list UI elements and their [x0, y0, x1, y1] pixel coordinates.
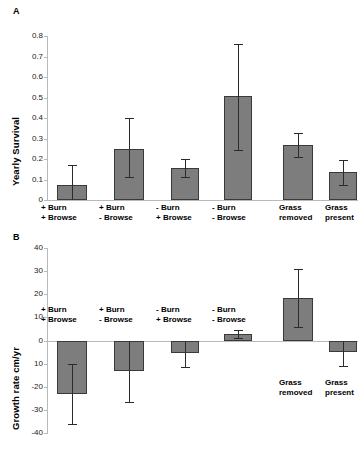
panel-b: B Growth rate cm/yr 40302010010-20-30-40… [0, 230, 364, 459]
category-label-line1: - Burn [156, 203, 180, 212]
y-axis-tick [44, 57, 47, 58]
y-axis-tick-label: 0.1 [13, 175, 43, 184]
panel-a: A Yearly Survival 00.10.20.30.40.50.60.7… [0, 0, 364, 230]
category-label: Grassremoved [279, 378, 312, 398]
error-bar-cap-lower [339, 366, 348, 367]
error-bar-cap-lower [125, 402, 134, 403]
category-label-line1: + Burn [99, 305, 125, 314]
error-bar-cap-upper [125, 118, 134, 119]
category-label-line1: Grass [325, 378, 348, 387]
category-label: + Burn+ Browse [41, 203, 77, 223]
error-bar-cap-lower [234, 150, 243, 151]
error-bar-cap-upper [294, 269, 303, 270]
error-bar-cap-upper [294, 133, 303, 134]
y-axis-tick-label: 10 [13, 359, 43, 368]
y-axis-tick-label: 30 [13, 266, 43, 275]
category-label-line2: removed [279, 213, 312, 223]
category-label-line2: + Browse [156, 213, 192, 223]
y-axis-tick [44, 387, 47, 388]
category-label: - Burn- Browse [212, 203, 246, 223]
y-axis-tick-label: 10 [13, 312, 43, 321]
error-bar-cap-lower [181, 367, 190, 368]
category-label-line1: Grass [279, 378, 302, 387]
y-axis-tick [44, 118, 47, 119]
error-bar-cap-upper [339, 160, 348, 161]
error-bar-cap-lower [294, 157, 303, 158]
category-label-line1: + Burn [41, 305, 67, 314]
error-bar-cap-lower [125, 177, 134, 178]
category-label-line2: + Browse [41, 213, 77, 223]
error-bar-cap-upper [68, 165, 77, 166]
category-label-line1: - Burn [156, 305, 180, 314]
error-bar-line [72, 165, 73, 200]
error-bar-cap-lower [234, 338, 243, 339]
y-axis-tick-label: 0 [13, 336, 43, 345]
y-axis-tick-label: 0.7 [13, 52, 43, 61]
category-label-line1: Grass [279, 203, 302, 212]
category-label: - Burn+ Browse [156, 203, 192, 223]
y-axis-tick-label: 20 [13, 289, 43, 298]
error-bar-cap-lower [339, 185, 348, 186]
y-axis-tick-label: 0 [13, 195, 43, 204]
category-label: Grassremoved [279, 203, 312, 223]
category-label: - Burn+ Browse [156, 305, 192, 325]
category-label-line2: - Browse [99, 213, 133, 223]
category-label: + Burn+ Browse [41, 305, 77, 325]
error-bar-cap-upper [234, 330, 243, 331]
error-bar-cap-upper [68, 364, 77, 365]
error-bar-line [343, 341, 344, 366]
category-label: + Burn- Browse [99, 305, 133, 325]
category-label-line1: - Burn [212, 305, 236, 314]
error-bar-cap-upper [181, 159, 190, 160]
category-label-line2: + Browse [156, 315, 192, 325]
zero-baseline [47, 341, 358, 342]
error-bar-line [298, 269, 299, 327]
category-label-line1: + Burn [99, 203, 125, 212]
error-bar-line [238, 330, 239, 338]
category-label-line1: + Burn [41, 203, 67, 212]
y-axis-tick-label: 0.6 [13, 72, 43, 81]
y-axis-tick-label: 0.4 [13, 113, 43, 122]
error-bar-line [185, 159, 186, 177]
y-axis-tick-label: 40 [13, 243, 43, 252]
y-axis-tick [44, 248, 47, 249]
category-label: Grasspresent [325, 203, 354, 223]
category-label: Grasspresent [325, 378, 354, 398]
y-axis-tick-label: -40 [13, 428, 43, 437]
category-label-line1: - Burn [212, 203, 236, 212]
y-axis-tick [44, 433, 47, 434]
error-bar-line [343, 160, 344, 185]
panel-a-plot-area: 00.10.20.30.40.50.60.70.8+ Burn+ Browse+… [0, 0, 364, 230]
y-axis-tick [44, 180, 47, 181]
category-label-line2: - Browse [212, 213, 246, 223]
error-bar-line [238, 44, 239, 150]
category-label-line2: removed [279, 388, 312, 398]
error-bar-cap-lower [68, 424, 77, 425]
y-axis-tick [44, 341, 47, 342]
category-label-line2: present [325, 213, 354, 223]
error-bar-line [185, 341, 186, 368]
panel-b-plot-area: 40302010010-20-30-40+ Burn+ Browse+ Burn… [0, 230, 364, 459]
y-axis-tick [44, 98, 47, 99]
error-bar-line [129, 118, 130, 177]
y-axis-tick-label: 0.3 [13, 134, 43, 143]
y-axis-tick [44, 271, 47, 272]
category-label-line2: - Browse [212, 315, 246, 325]
y-axis-tick [44, 410, 47, 411]
figure-container: A Yearly Survival 00.10.20.30.40.50.60.7… [0, 0, 364, 459]
error-bar-cap-lower [294, 327, 303, 328]
y-axis-tick-label: -20 [13, 382, 43, 391]
y-axis-tick [44, 159, 47, 160]
y-axis-tick-label: 0.8 [13, 31, 43, 40]
category-label-line2: - Browse [99, 315, 133, 325]
error-bar-line [298, 133, 299, 157]
error-bar-cap-upper [234, 44, 243, 45]
y-axis-tick-label: -30 [13, 405, 43, 414]
error-bar-line [72, 364, 73, 424]
category-label: + Burn- Browse [99, 203, 133, 223]
y-axis-tick [44, 364, 47, 365]
y-axis-tick-label: 0.2 [13, 154, 43, 163]
y-axis-tick [44, 36, 47, 37]
y-axis-tick [44, 139, 47, 140]
error-bar-cap-lower [181, 177, 190, 178]
